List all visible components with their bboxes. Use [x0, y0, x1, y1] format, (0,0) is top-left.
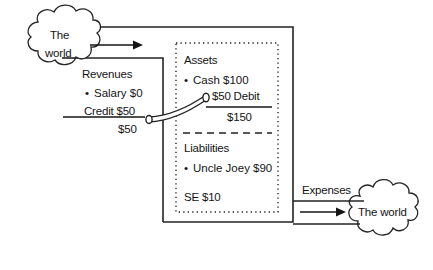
assets-row-0-label: Cash $100 [193, 74, 249, 86]
liabilities-row-0: •Uncle Joey $90 [184, 162, 272, 174]
cloud-left-line2: world [45, 48, 71, 60]
expenses-label: Expenses [302, 185, 351, 197]
bullet-dot: • [184, 162, 193, 174]
revenues-row-0-label: Salary $0 [94, 87, 143, 99]
cloud-left-line1: The [50, 30, 69, 42]
revenues-box-outline [76, 58, 163, 222]
cloud-right-line1: The world [358, 207, 407, 219]
stockholders-equity-label: SE $10 [184, 192, 221, 204]
assets-row-0: •Cash $100 [184, 74, 249, 86]
outflow-arrow [300, 208, 346, 217]
assets-total: $150 [227, 112, 252, 124]
liabilities-row-0-label: Uncle Joey $90 [193, 162, 272, 174]
assets-row-1-label: $50 Debit [212, 91, 259, 103]
revenues-row-0: •Salary $0 [85, 87, 143, 99]
ledger-dotted-box [176, 43, 278, 212]
assets-heading: Assets [184, 55, 217, 67]
entity-box-outline [65, 27, 293, 222]
credit-to-debit-pipe [146, 93, 209, 123]
bullet-dot: • [85, 87, 94, 99]
liabilities-heading: Liabilities [184, 143, 229, 155]
bullet-dot: • [184, 74, 193, 86]
revenues-heading: Revenues [82, 69, 132, 81]
revenues-row-1-label: Credit $50 [84, 106, 135, 118]
revenues-total: $50 [118, 124, 137, 136]
diagram-canvas: The world The world Revenues •Salary $0 … [0, 0, 433, 270]
